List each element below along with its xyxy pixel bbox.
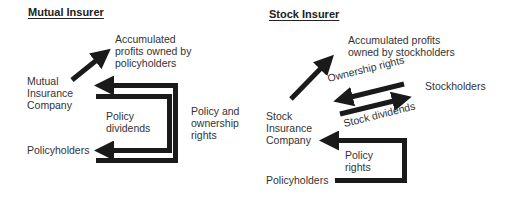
policy-rights-label: Policy rights <box>345 149 373 173</box>
mutual-policyholders-label: Policyholders <box>27 144 89 156</box>
stock-policyholders-label: Policyholders <box>266 174 328 186</box>
mutual-insurer-title: Mutual Insurer <box>28 6 104 18</box>
mutual-profits-label: Accumulated profits owned by policyholde… <box>115 33 191 69</box>
arrow-ownership-rights <box>343 84 404 99</box>
mutual-company-label: Mutual Insurance Company <box>27 75 73 111</box>
stockholders-label: Stockholders <box>425 80 486 92</box>
arrow-mutual-to-profits <box>72 55 103 80</box>
arrows-layer <box>0 0 509 201</box>
stock-insurer-title: Stock Insurer <box>269 8 339 20</box>
stock-company-label: Stock Insurance Company <box>266 110 312 146</box>
policy-dividends-label: Policy dividends <box>106 110 150 134</box>
policy-ownership-rights-label: Policy and ownership rights <box>191 105 239 141</box>
arrow-stock-to-profits <box>291 62 327 99</box>
